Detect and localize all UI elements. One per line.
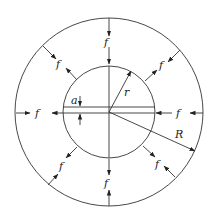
force-top-right: f [145,50,180,81]
force-label: f [58,160,65,173]
arrow-icon [48,174,58,185]
force-label: f [154,158,161,171]
force-top-left: f [43,46,77,80]
arrow-icon [145,70,157,81]
force-right: f [156,107,203,120]
force-top: f [103,18,110,64]
force-bottom-right: f [143,146,175,177]
arrow-icon [143,146,155,157]
arrow-icon [66,147,77,158]
force-bottom-left: f [48,147,77,185]
force-left: f [16,107,109,120]
arrow-icon [164,166,175,177]
arrow-icon [43,46,56,59]
outer-radius-label: R [174,128,183,141]
force-bottom: f [103,159,110,206]
arrow-icon [66,68,77,80]
gap-label: a [71,94,78,107]
force-label: f [175,107,182,120]
arrow-icon [168,50,180,62]
ring-diagram: a r R f f f f f f [0,0,215,221]
force-label: f [103,177,110,190]
force-label: f [34,107,41,120]
inner-radius-label: r [124,86,130,99]
force-label: f [158,59,165,72]
force-label: f [55,58,62,71]
